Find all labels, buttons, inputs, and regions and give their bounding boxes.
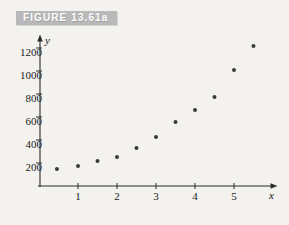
data-point xyxy=(232,68,236,72)
data-point xyxy=(252,44,256,48)
data-point xyxy=(193,108,197,112)
data-point xyxy=(115,155,119,159)
x-tick-label-5: 5 xyxy=(224,190,244,202)
axis-ticks-group xyxy=(36,48,234,189)
x-axis-name: x xyxy=(269,189,274,201)
data-point xyxy=(96,159,100,163)
y-tick-label-1200: 1200 xyxy=(8,46,42,58)
scatter-plot: 1200 1000 800 600 400 200 1 2 3 4 5 y x xyxy=(0,0,289,225)
y-tick-label-1000: 1000 xyxy=(8,69,42,81)
data-point xyxy=(55,167,59,171)
x-tick-label-3: 3 xyxy=(146,190,166,202)
y-tick-label-400: 400 xyxy=(8,138,42,150)
data-points-group xyxy=(55,44,256,171)
y-axis-arrow-icon xyxy=(37,35,43,42)
x-axis-arrow-icon xyxy=(271,183,278,189)
x-tick-label-2: 2 xyxy=(107,190,127,202)
data-point xyxy=(76,164,80,168)
plot-canvas xyxy=(0,0,289,225)
x-tick-label-4: 4 xyxy=(185,190,205,202)
x-tick-label-1: 1 xyxy=(68,190,88,202)
y-tick-label-800: 800 xyxy=(8,92,42,104)
data-point xyxy=(174,120,178,124)
data-point xyxy=(135,146,139,150)
data-point xyxy=(213,95,217,99)
data-point xyxy=(154,135,158,139)
figure-container: FIGURE 13.61a 1200 1000 800 600 400 200 … xyxy=(0,0,289,225)
y-axis-name: y xyxy=(45,34,50,46)
y-tick-label-200: 200 xyxy=(8,161,42,173)
y-tick-label-600: 600 xyxy=(8,115,42,127)
axes-group xyxy=(37,35,277,189)
